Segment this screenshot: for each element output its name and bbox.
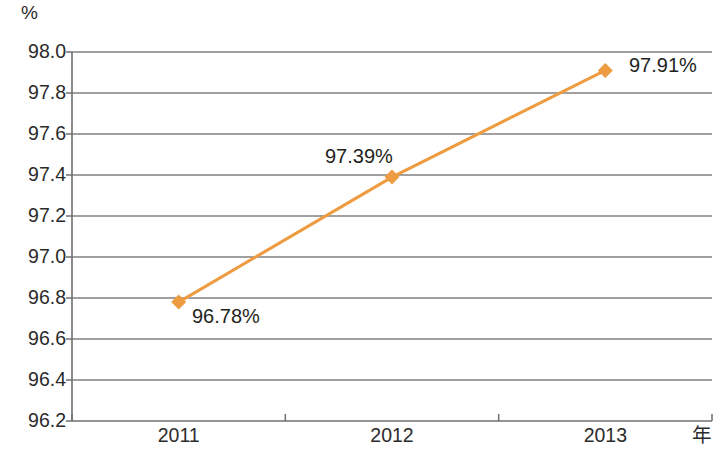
y-axis-tick-label: 96.2 [4,410,66,430]
y-axis-tick-label: 96.8 [4,287,66,307]
data-point-marker [171,295,186,310]
line-chart: % 96.296.496.696.897.097.297.497.697.898… [0,0,724,451]
x-axis-tick-label: 2013 [584,424,627,446]
x-axis-ticks [72,414,712,421]
data-label-2012: 97.39% [325,145,393,167]
y-axis-tick-label: 97.4 [4,164,66,184]
y-axis-tick-label: 98.0 [4,41,66,61]
y-axis-tick-label: 96.4 [4,369,66,389]
gridlines [72,52,712,380]
y-axis-tick-label: 96.6 [4,328,66,348]
y-axis-ticks [66,52,72,421]
series-line [179,70,606,302]
y-axis-tick-label: 97.6 [4,123,66,143]
data-point-marker [385,170,400,185]
data-label-2013: 97.91% [629,54,697,76]
plot-area [0,0,724,451]
x-axis-unit-label: 年 [692,424,712,446]
data-point-marker [598,63,613,78]
y-axis-tick-label: 97.2 [4,205,66,225]
x-axis-tick-label: 2011 [158,424,200,446]
data-label-2011: 96.78% [192,305,260,327]
y-axis-tick-label: 97.0 [4,246,66,266]
x-axis-tick-label: 2012 [370,424,413,446]
y-axis-tick-label: 97.8 [4,82,66,102]
y-axis-tick-labels: 96.296.496.696.897.097.297.497.697.898.0 [0,0,66,451]
